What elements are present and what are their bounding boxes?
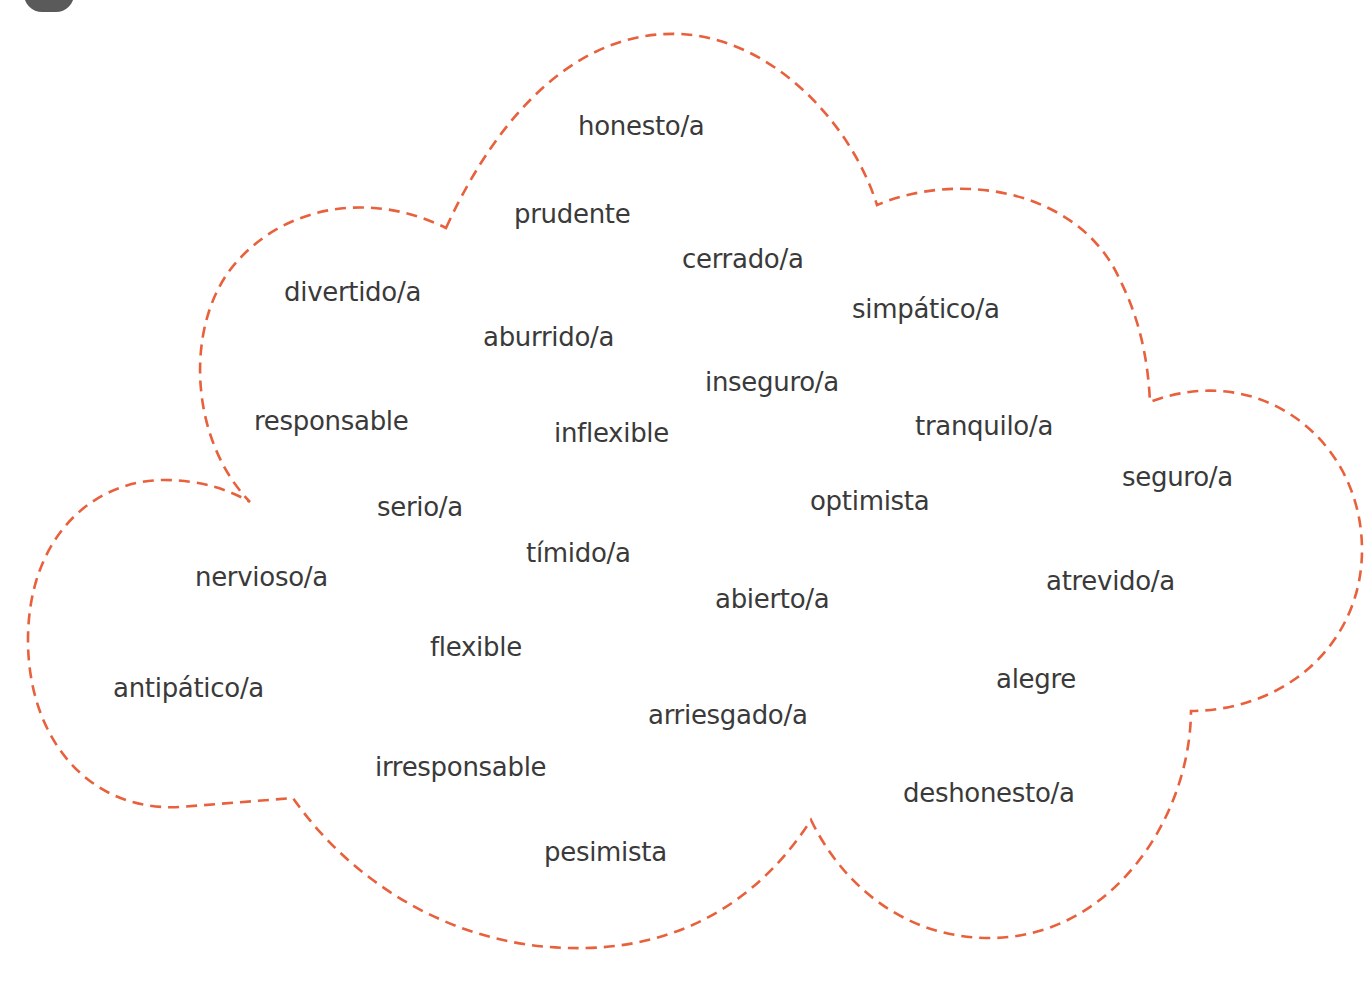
adjective-optimista: optimista xyxy=(810,488,929,514)
adjective-flexible: flexible xyxy=(430,634,522,660)
cloud-outline xyxy=(0,0,1371,992)
adjective-deshonesto: deshonesto/a xyxy=(903,780,1075,806)
adjective-responsable: responsable xyxy=(254,408,408,434)
adjective-tranquilo: tranquilo/a xyxy=(915,413,1053,439)
adjective-inseguro: inseguro/a xyxy=(705,369,839,395)
adjective-pesimista: pesimista xyxy=(544,839,667,865)
adjective-antipatico: antipático/a xyxy=(113,675,264,701)
adjective-honesto: honesto/a xyxy=(578,113,705,139)
adjective-nervioso: nervioso/a xyxy=(195,564,328,590)
adjective-seguro: seguro/a xyxy=(1122,464,1233,490)
adjective-serio: serio/a xyxy=(377,494,463,520)
adjective-arriesgado: arriesgado/a xyxy=(648,702,808,728)
adjective-divertido: divertido/a xyxy=(284,279,421,305)
adjective-timido: tímido/a xyxy=(526,540,631,566)
adjective-inflexible: inflexible xyxy=(554,420,669,446)
adjective-alegre: alegre xyxy=(996,666,1076,692)
adjective-aburrido: aburrido/a xyxy=(483,324,614,350)
adjective-abierto: abierto/a xyxy=(715,586,829,612)
adjective-simpatico: simpático/a xyxy=(852,296,1000,322)
adjective-prudente: prudente xyxy=(514,201,630,227)
adjective-irresponsable: irresponsable xyxy=(375,754,546,780)
adjective-cerrado: cerrado/a xyxy=(682,246,804,272)
adjective-atrevido: atrevido/a xyxy=(1046,568,1175,594)
